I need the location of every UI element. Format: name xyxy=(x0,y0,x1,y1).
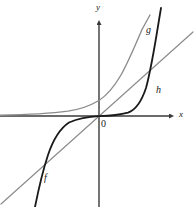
origin-label: 0 xyxy=(101,119,106,129)
curve-label-h: h xyxy=(156,85,161,95)
curve-f xyxy=(1,32,193,204)
curve-g xyxy=(0,15,150,115)
curve-h xyxy=(35,8,161,207)
curve-label-g: g xyxy=(146,25,151,35)
curve-label-f: f xyxy=(44,173,47,183)
plot-canvas xyxy=(0,0,195,207)
function-graph-figure: g h f x y 0 xyxy=(0,0,195,207)
y-axis-label: y xyxy=(96,3,100,12)
x-axis-label: x xyxy=(179,110,183,119)
